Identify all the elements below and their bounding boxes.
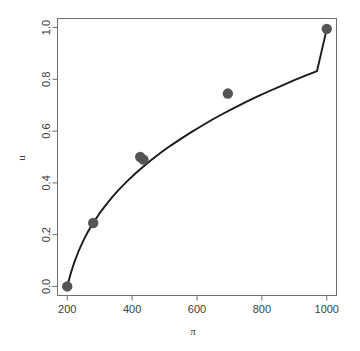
y-tick-label: 0.2: [40, 227, 52, 242]
y-tick-label: 0.6: [40, 123, 52, 138]
data-point: [62, 281, 72, 291]
x-tick-label: 800: [253, 303, 271, 315]
data-point: [322, 24, 332, 34]
data-point: [223, 88, 233, 98]
y-axis-title: u: [15, 155, 27, 161]
x-tick-label: 400: [123, 303, 141, 315]
chart-background: [0, 0, 360, 351]
x-axis-title: π: [190, 325, 196, 337]
y-tick-label: 0.8: [40, 72, 52, 87]
y-tick-label: 1.0: [40, 20, 52, 35]
x-tick-label: 1000: [315, 303, 339, 315]
y-tick-label: 0.4: [40, 175, 52, 190]
plot-container: 2004006008001000 0.00.20.40.60.81.0 π u: [0, 0, 360, 351]
data-point: [138, 154, 148, 164]
y-tick-label: 0.0: [40, 279, 52, 294]
chart-canvas: 2004006008001000 0.00.20.40.60.81.0 π u: [0, 0, 360, 351]
x-tick-label: 600: [188, 303, 206, 315]
data-point: [88, 218, 98, 228]
x-tick-label: 200: [58, 303, 76, 315]
